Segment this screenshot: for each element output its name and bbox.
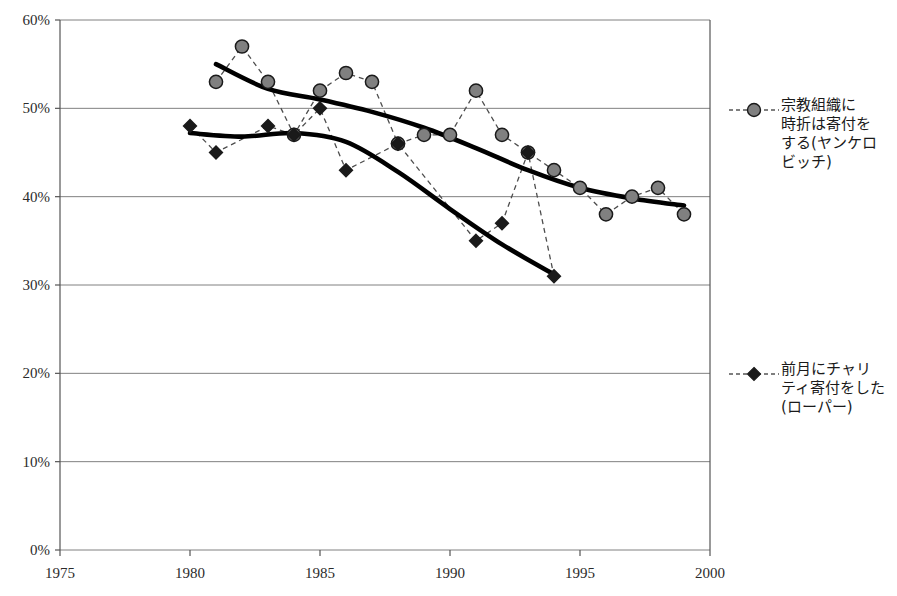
line-chart-svg: 0%10%20%30%40%50%60% 1975198019851990199… bbox=[0, 0, 897, 596]
data-point-marker bbox=[235, 40, 248, 53]
data-point-marker bbox=[209, 75, 222, 88]
data-point-marker bbox=[417, 128, 430, 141]
data-point-marker bbox=[262, 120, 275, 133]
y-tick-label: 0% bbox=[30, 542, 50, 558]
gridlines-group bbox=[60, 20, 710, 550]
chart-container: 0%10%20%30%40%50%60% 1975198019851990199… bbox=[0, 0, 897, 596]
legend-label-religious-donation: 宗教組織に 時折は寄付を する(ヤンケロ ビッチ) bbox=[781, 96, 893, 172]
y-tick-label: 60% bbox=[23, 12, 51, 28]
x-tick-label: 1990 bbox=[435, 565, 465, 581]
data-point-marker bbox=[443, 128, 456, 141]
data-point-marker bbox=[469, 84, 482, 97]
x-tick-label: 1995 bbox=[565, 565, 595, 581]
y-tick-label: 50% bbox=[23, 100, 51, 116]
series-markers-group bbox=[184, 40, 691, 283]
y-tick-label: 10% bbox=[23, 454, 51, 470]
legend-label-charity-donation: 前月にチャリ ティ寄付をした (ローパー) bbox=[781, 360, 893, 417]
y-tick-labels-group: 0%10%20%30%40%50%60% bbox=[23, 12, 51, 558]
series-trend-lines-group bbox=[190, 64, 684, 274]
data-point-marker bbox=[313, 84, 326, 97]
data-point-marker bbox=[184, 120, 197, 133]
x-tick-labels-group: 197519801985199019952000 bbox=[45, 565, 725, 581]
data-point-marker bbox=[547, 164, 560, 177]
data-point-marker bbox=[496, 217, 509, 230]
data-point-marker bbox=[677, 208, 690, 221]
data-point-marker bbox=[495, 128, 508, 141]
data-point-marker bbox=[339, 66, 352, 79]
data-point-marker bbox=[340, 164, 353, 177]
x-tick-label: 1985 bbox=[305, 565, 335, 581]
legend-marker-circle-icon bbox=[728, 100, 780, 120]
data-point-marker bbox=[365, 75, 378, 88]
y-tick-label: 40% bbox=[23, 189, 51, 205]
y-tick-label: 20% bbox=[23, 365, 51, 381]
data-point-marker bbox=[599, 208, 612, 221]
x-tick-label: 2000 bbox=[695, 565, 725, 581]
series-1-trend-line bbox=[190, 133, 554, 274]
data-point-marker bbox=[625, 190, 638, 203]
data-point-marker bbox=[573, 181, 586, 194]
x-tick-label: 1980 bbox=[175, 565, 205, 581]
axes-group bbox=[55, 20, 710, 556]
circle-marker-icon bbox=[748, 104, 761, 117]
data-point-marker bbox=[261, 75, 274, 88]
data-point-marker bbox=[470, 234, 483, 247]
data-point-marker bbox=[651, 181, 664, 194]
legend-marker-diamond-icon bbox=[728, 364, 780, 384]
y-tick-label: 30% bbox=[23, 277, 51, 293]
x-tick-label: 1975 bbox=[45, 565, 75, 581]
diamond-marker-icon bbox=[748, 368, 761, 381]
